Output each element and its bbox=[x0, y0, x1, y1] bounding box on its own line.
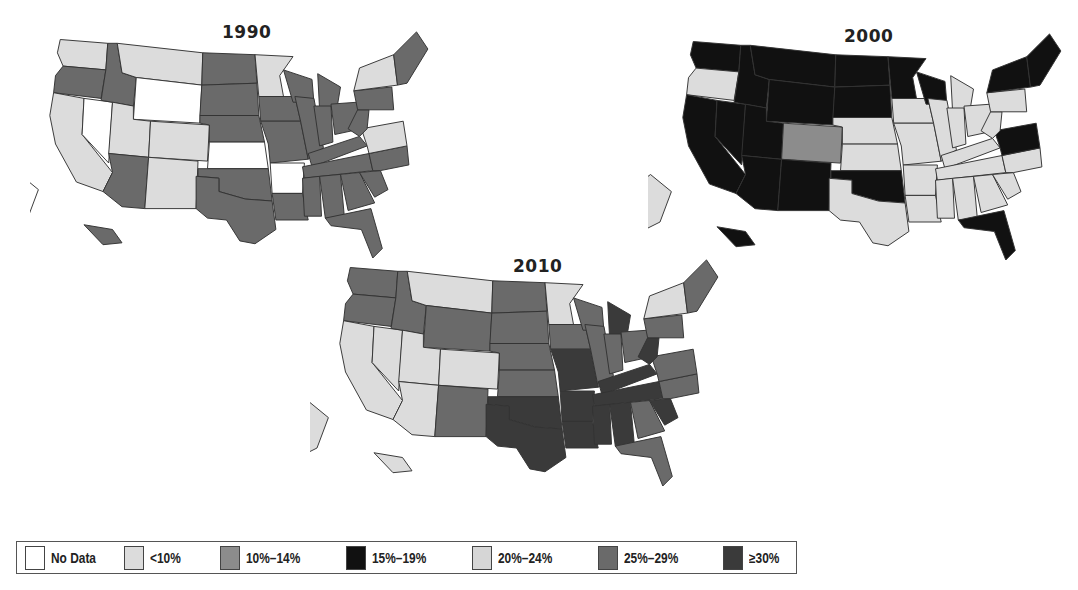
state-co bbox=[149, 121, 210, 161]
state-nd bbox=[492, 281, 547, 313]
state-ks bbox=[841, 144, 902, 171]
legend-label: No Data bbox=[51, 550, 96, 566]
state-or bbox=[344, 294, 396, 326]
state-wy bbox=[766, 80, 834, 126]
state-wa bbox=[57, 40, 107, 70]
state-co bbox=[439, 349, 500, 389]
state-ks bbox=[498, 370, 559, 397]
state-mo bbox=[894, 123, 942, 165]
state-nm bbox=[145, 157, 198, 208]
legend-item-15-19: 15%–19% bbox=[346, 546, 436, 570]
state-fl bbox=[958, 211, 1015, 260]
state-nm bbox=[435, 385, 488, 436]
state-sd bbox=[490, 311, 549, 343]
swatch-gte30 bbox=[723, 546, 743, 570]
legend-item-10-14: 10%–14% bbox=[220, 546, 310, 570]
legend-label: <10% bbox=[150, 550, 181, 566]
state-ne_reg bbox=[394, 32, 428, 85]
state-al bbox=[953, 176, 978, 220]
state-ne_reg bbox=[1027, 34, 1061, 87]
state-nd bbox=[202, 53, 257, 85]
state-ne_reg bbox=[684, 260, 718, 313]
state-mo bbox=[261, 121, 309, 163]
legend-label: 15%–19% bbox=[372, 550, 426, 566]
state-hi bbox=[374, 453, 412, 473]
state-ms bbox=[593, 404, 612, 444]
swatch-no-data bbox=[25, 546, 45, 570]
state-wy bbox=[133, 78, 201, 124]
swatch-15-19 bbox=[346, 546, 366, 570]
us-map-2010 bbox=[310, 258, 730, 488]
state-sd bbox=[200, 83, 259, 115]
state-fl bbox=[615, 437, 672, 486]
state-or bbox=[687, 68, 739, 100]
state-wy bbox=[423, 306, 491, 352]
state-ne bbox=[490, 344, 555, 371]
state-ny bbox=[644, 283, 688, 319]
state-ak bbox=[30, 173, 38, 240]
state-ar bbox=[560, 391, 594, 421]
state-wa bbox=[690, 42, 740, 72]
state-ar bbox=[270, 163, 304, 193]
state-la bbox=[905, 195, 941, 222]
state-ny bbox=[354, 55, 398, 91]
legend-label: 25%–29% bbox=[624, 550, 678, 566]
state-ms bbox=[303, 176, 322, 216]
state-co bbox=[782, 123, 843, 163]
state-sd bbox=[833, 85, 892, 117]
state-nm bbox=[778, 159, 831, 210]
legend: No Data <10% 10%–14% 15%–19% 20%–24% 25%… bbox=[16, 541, 797, 574]
state-az bbox=[103, 154, 149, 209]
state-ar bbox=[903, 165, 937, 195]
us-map-2000 bbox=[648, 32, 1078, 262]
legend-item-25-29: 25%–29% bbox=[598, 546, 688, 570]
state-ne bbox=[200, 116, 265, 143]
state-la bbox=[562, 421, 598, 448]
legend-label: 10%–14% bbox=[246, 550, 300, 566]
state-nd bbox=[835, 55, 890, 87]
state-ms bbox=[936, 178, 955, 218]
state-ak bbox=[648, 175, 671, 242]
state-or bbox=[54, 66, 106, 98]
state-al bbox=[320, 174, 345, 218]
state-fl bbox=[325, 209, 382, 258]
us-map-1990 bbox=[30, 30, 430, 260]
state-ak bbox=[310, 401, 328, 468]
swatch-20-24 bbox=[472, 546, 492, 570]
legend-item-20-24: 20%–24% bbox=[472, 546, 562, 570]
legend-item-no-data: No Data bbox=[25, 546, 104, 570]
state-hi bbox=[717, 227, 755, 247]
state-ks bbox=[208, 142, 269, 169]
state-la bbox=[272, 193, 308, 220]
legend-item-gte30: ≥30% bbox=[723, 546, 785, 570]
legend-label: ≥30% bbox=[749, 550, 779, 566]
state-al bbox=[610, 402, 635, 446]
state-hi bbox=[84, 225, 122, 245]
legend-label: 20%–24% bbox=[498, 550, 552, 566]
state-wa bbox=[347, 268, 397, 298]
state-az bbox=[736, 156, 782, 211]
state-mo bbox=[551, 349, 599, 391]
state-ne bbox=[833, 118, 898, 145]
swatch-lt10 bbox=[124, 546, 144, 570]
state-ny bbox=[987, 57, 1031, 93]
legend-item-lt10: <10% bbox=[124, 546, 186, 570]
swatch-10-14 bbox=[220, 546, 240, 570]
swatch-25-29 bbox=[598, 546, 618, 570]
state-az bbox=[393, 382, 439, 437]
